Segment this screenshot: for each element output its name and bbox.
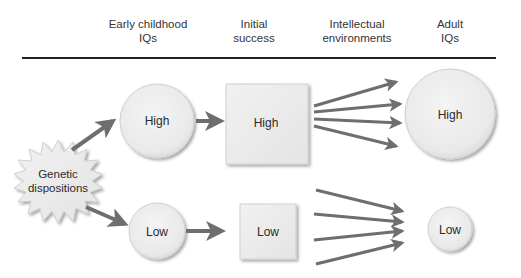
label-high-success: High bbox=[254, 116, 279, 130]
label-line: Genetic bbox=[28, 167, 88, 181]
label-low-success: Low bbox=[257, 225, 279, 239]
arrows-low-environments bbox=[314, 190, 402, 264]
label-high-childhood: High bbox=[145, 114, 170, 128]
label-low-childhood: Low bbox=[146, 225, 168, 239]
label-genetic-dispositions: Genetic dispositions bbox=[28, 167, 88, 195]
arrow-genetic-to-low bbox=[86, 207, 125, 224]
label-low-adult: Low bbox=[439, 223, 461, 237]
arrows-high-environments bbox=[314, 82, 400, 146]
arrow-genetic-to-high bbox=[72, 121, 113, 150]
label-line: dispositions bbox=[28, 181, 88, 195]
label-high-adult: High bbox=[438, 108, 463, 122]
